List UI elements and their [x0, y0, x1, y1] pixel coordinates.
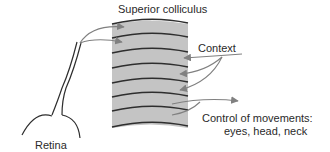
retina-label: Retina	[35, 139, 67, 151]
retina-arc	[22, 115, 80, 138]
superior-colliculus-diagram: Superior colliculus Context Control of m…	[0, 0, 330, 152]
control-label-line2: eyes, head, neck	[224, 125, 307, 137]
superior-colliculus-label: Superior colliculus	[118, 3, 207, 15]
context-label: Context	[198, 42, 236, 54]
optic-nerve	[52, 42, 81, 115]
context-arrows	[180, 54, 242, 90]
colliculus-slab	[112, 21, 188, 129]
control-label-line1: Control of movements:	[202, 112, 313, 124]
